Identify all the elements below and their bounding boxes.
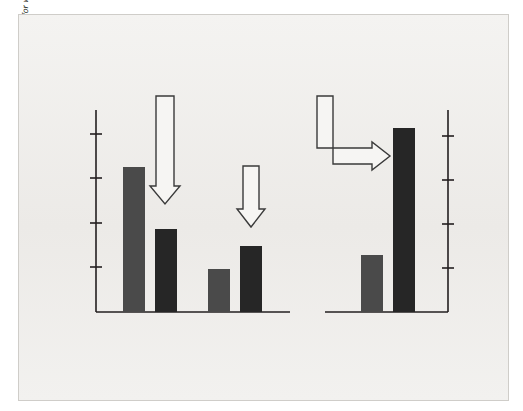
arrow-to-span-technical-bar: [150, 96, 180, 204]
arrow-to-rnd-technical-bar: [317, 96, 390, 170]
callout-arrows: [0, 0, 523, 411]
chart-figure: Span of Control and Decentralization (nu…: [0, 0, 523, 411]
arrow-to-decentralization-technical-bar: [237, 166, 265, 227]
